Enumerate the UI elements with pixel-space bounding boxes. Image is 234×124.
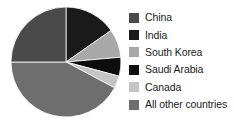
legend-color-swatch	[129, 82, 139, 92]
pie-chart-graphic: IndiaSouth KoreaSaudi ArabiaCanadaAll ot…	[11, 6, 121, 118]
legend-color-swatch	[129, 100, 139, 110]
legend-item-label: Saudi Arabia	[145, 64, 203, 75]
chart-legend: ChinaIndiaSouth KoreaSaudi ArabiaCanadaA…	[129, 9, 234, 117]
legend-item-label: China	[145, 12, 172, 23]
legend-color-swatch	[129, 13, 139, 23]
legend-color-swatch	[129, 65, 139, 75]
pie-chart-figure: IndiaSouth KoreaSaudi ArabiaCanadaAll ot…	[0, 0, 234, 124]
pie-slice-group: IndiaSouth KoreaSaudi ArabiaCanadaAll ot…	[11, 7, 121, 117]
legend-item[interactable]: Canada	[129, 79, 234, 96]
legend-item-label: South Korea	[145, 47, 202, 58]
legend-item-label: India	[145, 30, 167, 41]
legend-item[interactable]: India	[129, 26, 234, 43]
legend-item[interactable]: All other countries	[129, 96, 234, 113]
legend-item[interactable]: Saudi Arabia	[129, 61, 234, 78]
legend-item-label: Canada	[145, 82, 181, 93]
legend-item[interactable]: China	[129, 9, 234, 26]
legend-item[interactable]: South Korea	[129, 44, 234, 61]
legend-color-swatch	[129, 30, 139, 40]
pie-slice[interactable]: China	[11, 7, 66, 62]
legend-item-label: All other countries	[145, 99, 227, 110]
legend-color-swatch	[129, 47, 139, 57]
